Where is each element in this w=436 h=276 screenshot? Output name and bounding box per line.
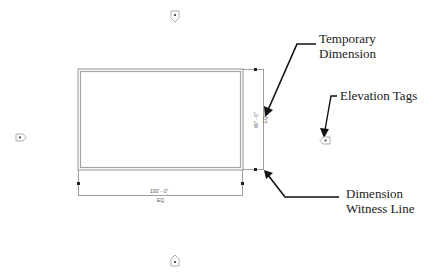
elevation-tag-top-icon[interactable] <box>171 11 179 22</box>
width-dimension-value[interactable]: 100' - 0" <box>150 188 168 194</box>
height-dimension-value[interactable]: 60' - 0" <box>253 112 259 128</box>
temporary-dimension-leader <box>264 44 316 117</box>
elevation-tag-left-icon[interactable] <box>16 134 26 141</box>
room-walls[interactable] <box>78 69 243 170</box>
height-dimension-eq[interactable]: EQ <box>262 116 268 123</box>
elevation-tags-label: Elevation Tags <box>340 88 417 103</box>
elevation-tag-bottom-icon[interactable] <box>171 255 179 266</box>
dimension-witness-line-leader <box>264 170 339 197</box>
width-dimension-eq[interactable]: EQ <box>157 197 164 203</box>
elevation-tags-leader <box>320 96 337 138</box>
dimension-witness-line-label: Dimension Witness Line <box>346 186 414 216</box>
temporary-dimension-label: Temporary Dimension <box>319 31 376 61</box>
elevation-tag-right-icon[interactable] <box>320 137 330 144</box>
